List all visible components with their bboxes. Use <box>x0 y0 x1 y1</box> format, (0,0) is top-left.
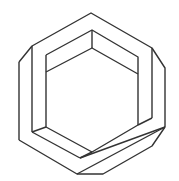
impossible-hexagon-figure <box>0 0 179 181</box>
figure-container <box>0 0 179 181</box>
